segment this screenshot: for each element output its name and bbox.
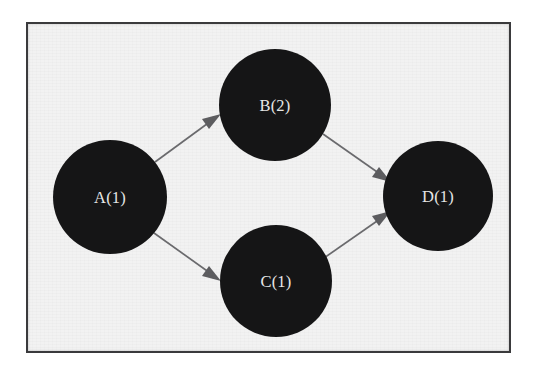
node-b-label: B(2) — [259, 96, 290, 115]
figure-frame: A(1) B(2) C(1) D(1) — [26, 22, 511, 353]
edge-c-to-d-line — [324, 219, 380, 258]
graph-canvas: A(1) B(2) C(1) D(1) — [28, 24, 513, 355]
node-a-label: A(1) — [94, 188, 126, 207]
node-c[interactable]: C(1) — [220, 225, 332, 337]
edge-a-to-b[interactable] — [155, 114, 221, 162]
node-c-label: C(1) — [260, 272, 291, 291]
edge-a-to-c-line — [154, 233, 210, 273]
node-d[interactable]: D(1) — [383, 141, 493, 251]
edge-a-to-c[interactable] — [154, 233, 221, 281]
edge-a-to-c-arrowhead — [202, 266, 221, 281]
node-a[interactable]: A(1) — [53, 140, 167, 254]
edge-a-to-b-arrowhead — [202, 114, 221, 129]
edge-c-to-d[interactable] — [324, 211, 391, 258]
edge-b-to-d-line — [323, 134, 380, 174]
figure-page: A(1) B(2) C(1) D(1) — [0, 0, 535, 372]
edge-a-to-b-line — [155, 121, 211, 162]
edge-b-to-d[interactable] — [323, 134, 391, 182]
node-d-label: D(1) — [422, 187, 454, 206]
node-b[interactable]: B(2) — [219, 49, 331, 161]
node-group: A(1) B(2) C(1) D(1) — [53, 49, 493, 337]
